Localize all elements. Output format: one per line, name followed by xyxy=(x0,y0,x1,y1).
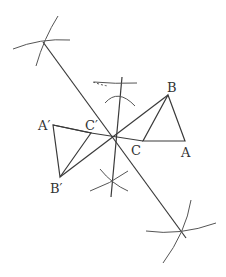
label-b-prime: B′ xyxy=(50,181,63,196)
geometry-diagram: B A C A′ B′ C′ xyxy=(0,0,226,277)
label-c: C xyxy=(131,143,141,158)
label-a-prime: A′ xyxy=(37,118,50,133)
label-a: A xyxy=(180,145,191,160)
bisector-line-diagonal xyxy=(43,42,186,238)
label-c-prime: C′ xyxy=(85,118,98,133)
label-b: B xyxy=(167,80,177,95)
triangle-abc xyxy=(143,95,185,141)
construction-arc xyxy=(94,82,137,83)
construction-arc xyxy=(13,40,70,49)
construction-arc xyxy=(146,223,216,232)
